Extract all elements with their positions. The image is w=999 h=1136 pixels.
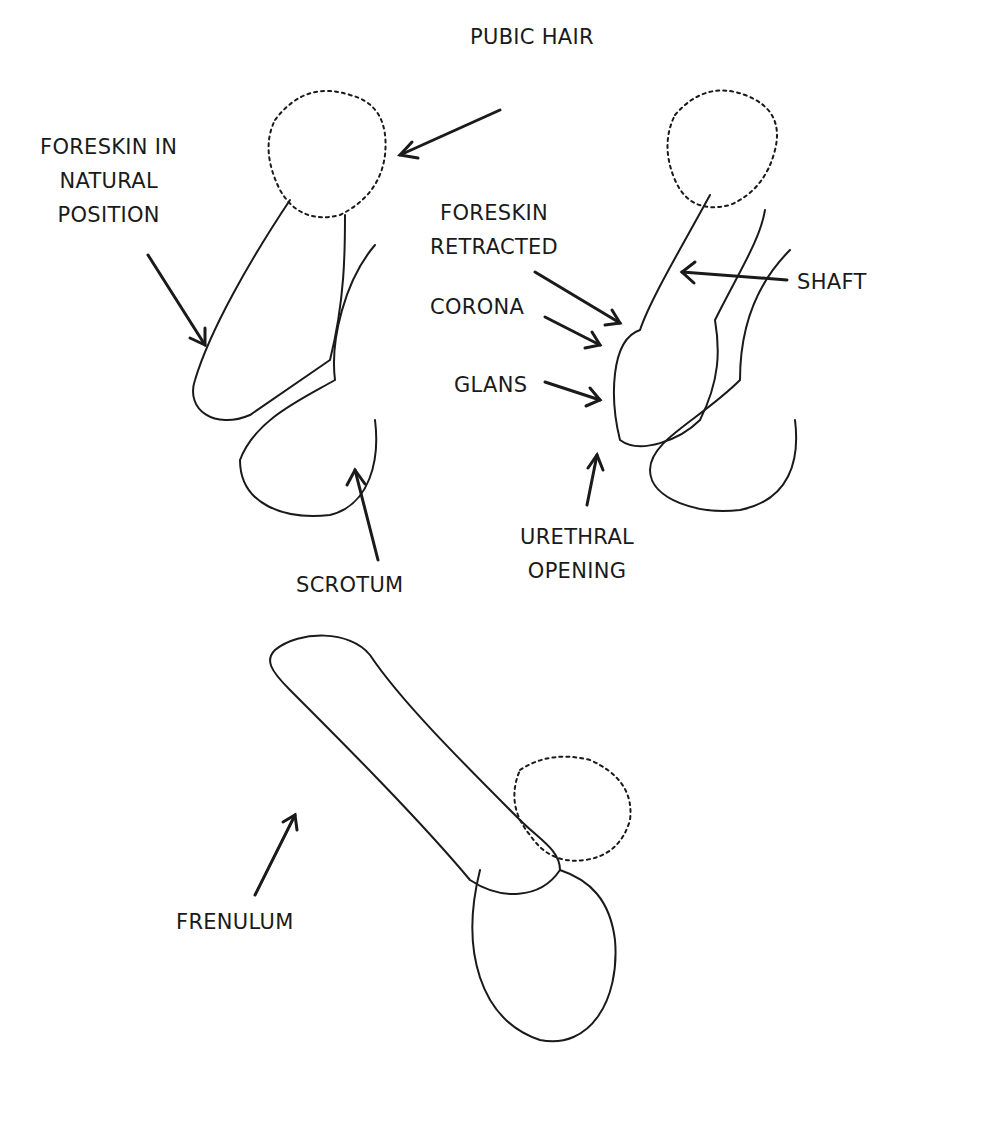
arrow-pubic-hair [400,110,500,155]
anatomy-diagram: PUBIC HAIR FORESKIN IN NATURAL POSITION … [0,0,999,1136]
outline-lower [473,870,616,1041]
arrow-foreskin-natural [148,255,205,345]
outline-lower [650,250,796,511]
figure-natural-position [193,91,386,516]
label-foreskin-natural-position: FORESKIN IN NATURAL POSITION [40,130,177,232]
label-glans: GLANS [454,368,527,402]
label-scrotum: SCROTUM [296,568,404,602]
label-urethral-opening: URETHRAL OPENING [520,520,634,588]
figure-retracted [614,91,796,511]
hair-region-outline [514,757,630,861]
label-frenulum: FRENULUM [176,905,294,939]
outline-shape [270,636,560,894]
arrow-frenulum [255,815,295,895]
hair-region-outline [668,91,778,208]
label-corona: CORONA [430,290,524,324]
arrow-foreskin-retracted [535,272,620,323]
label-shaft: SHAFT [797,265,867,299]
figure-underside [270,636,631,1042]
hair-region-outline [269,91,386,217]
label-pubic-hair: PUBIC HAIR [470,20,594,54]
outline-shape [614,195,765,446]
label-foreskin-retracted: FORESKIN RETRACTED [430,196,558,264]
